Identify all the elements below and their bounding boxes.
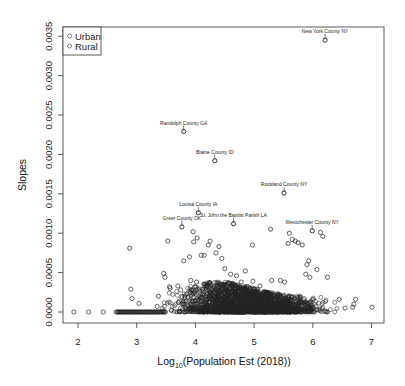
- scatter-chart: New York County NYRandolph County GABlai…: [0, 0, 405, 386]
- y-tick-label: 0.0035: [43, 22, 54, 51]
- x-tick-label: 6: [310, 336, 315, 347]
- data-point: [179, 288, 183, 292]
- data-point: [191, 230, 195, 234]
- legend: Urban Rural: [63, 27, 101, 55]
- data-point: [304, 272, 308, 276]
- data-point: [223, 267, 227, 271]
- data-point: [206, 243, 210, 247]
- y-tick-label: 0.0015: [43, 179, 54, 208]
- data-point: [195, 236, 199, 240]
- data-point: [278, 278, 282, 282]
- y-tick-label: 0.0000: [43, 297, 54, 326]
- y-axis: 0.00000.00050.00100.00150.00200.00250.00…: [43, 22, 63, 327]
- data-point: [217, 244, 221, 248]
- data-point: [86, 310, 90, 314]
- data-point: [321, 234, 325, 238]
- data-point: [243, 269, 247, 273]
- data-point: [354, 297, 358, 301]
- data-point: [187, 255, 191, 259]
- annotations-layer: New York County NYRandolph County GABlai…: [160, 28, 349, 233]
- data-point: [214, 251, 218, 255]
- y-tick-label: 0.0025: [43, 100, 54, 129]
- x-axis: 234567: [75, 323, 374, 347]
- data-point: [270, 278, 274, 282]
- data-point: [325, 275, 329, 279]
- data-point: [130, 297, 134, 301]
- data-point: [239, 280, 243, 284]
- data-point: [72, 310, 76, 314]
- data-point: [192, 240, 196, 244]
- y-tick-label: 0.0030: [43, 61, 54, 90]
- data-point: [251, 279, 255, 283]
- data-point: [370, 305, 374, 309]
- data-point: [308, 275, 312, 279]
- x-tick-label: 3: [134, 336, 139, 347]
- y-tick-label: 0.0020: [43, 140, 54, 169]
- y-axis-title: Slopes: [16, 159, 28, 191]
- data-point: [208, 239, 212, 243]
- x-tick-label: 2: [75, 336, 80, 347]
- x-axis-title: Log10(Population Est (2018)): [157, 355, 290, 369]
- annotation-label: Westchester County NY: [286, 219, 340, 225]
- legend-label-rural: Rural: [75, 41, 98, 52]
- annotation-label: Blaine County ID: [196, 149, 234, 155]
- data-point: [176, 284, 180, 288]
- data-point: [307, 259, 311, 263]
- data-point: [229, 272, 233, 276]
- data-point: [137, 301, 141, 305]
- data-point: [258, 284, 262, 288]
- x-tick-label: 4: [193, 336, 198, 347]
- y-tick-label: 0.0010: [43, 219, 54, 248]
- data-point: [287, 231, 291, 235]
- data-point: [155, 304, 159, 308]
- data-point: [268, 227, 272, 231]
- annotation-label: Randolph County GA: [160, 120, 208, 126]
- y-tick-label: 0.0005: [43, 258, 54, 287]
- data-point: [101, 310, 105, 314]
- annotation-label: New York County NY: [302, 28, 349, 34]
- data-point: [305, 263, 309, 267]
- data-point: [162, 271, 166, 275]
- annotation-label: Rockland County NY: [261, 181, 308, 187]
- x-tick-label: 5: [251, 336, 256, 347]
- data-point: [128, 246, 132, 250]
- annotation-label: Greer County OK: [163, 215, 202, 221]
- data-point: [202, 253, 206, 257]
- data-point: [220, 256, 224, 260]
- data-point: [234, 274, 238, 278]
- data-point: [156, 294, 160, 298]
- dense-points-layer: [114, 280, 339, 314]
- data-point: [283, 280, 287, 284]
- data-point: [182, 259, 186, 263]
- plot-frame: [63, 27, 384, 323]
- data-point: [343, 306, 347, 310]
- data-point: [250, 243, 254, 247]
- data-point: [194, 280, 198, 284]
- annotation-label: Louisa County IA: [179, 201, 218, 207]
- data-point: [318, 230, 322, 234]
- data-point: [129, 287, 133, 291]
- data-point: [315, 267, 319, 271]
- data-point: [166, 239, 170, 243]
- data-point: [189, 278, 193, 282]
- data-point: [163, 275, 167, 279]
- x-tick-label: 7: [369, 336, 374, 347]
- data-point: [300, 243, 304, 247]
- data-point: [337, 297, 341, 301]
- data-point: [286, 241, 290, 245]
- annotation-label: St. John the Baptist Parish LA: [200, 212, 267, 218]
